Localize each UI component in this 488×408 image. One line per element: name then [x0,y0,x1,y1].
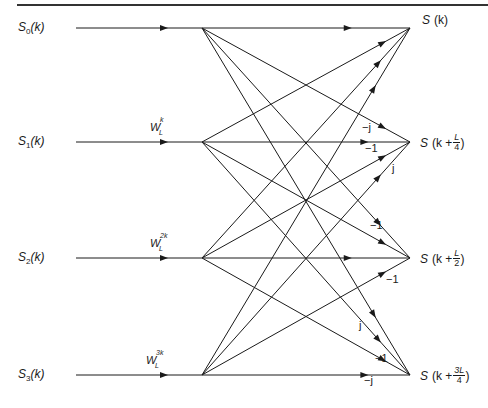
twiddle-subscript: L [159,245,163,252]
output-name: S [420,253,428,265]
arrow-icon [378,238,388,247]
fraction-denominator: 2 [454,259,459,268]
output-fraction: 3L4 [453,366,465,386]
output-arg: (k) [434,14,448,26]
input-label-2: S2(k) [18,251,44,266]
output-arg: (k + [432,370,452,382]
coefficient-label-5: j [359,320,361,331]
output-label-1: S(k +L4) [420,133,464,153]
output-close: ) [460,137,464,149]
input-label-3: S3(k) [18,368,44,383]
input-name: S [18,250,26,264]
arrow-icon [160,139,168,145]
coefficient-label-0: −j [362,122,371,133]
output-close: ) [465,370,469,382]
input-arg: (k) [30,134,44,148]
output-arg: (k + [432,253,452,265]
coefficient-label-4: −1 [386,274,399,285]
output-close: ) [460,253,464,265]
output-arg: (k + [432,137,452,149]
coefficient-label-2: j [392,163,394,174]
coefficient-label-3: −1 [370,220,383,231]
coefficient-label-7: −j [364,375,373,386]
arrow-icon [378,153,388,162]
twiddle-subscript: L [155,362,159,369]
arrow-icon [369,84,378,94]
arrow-icon [378,122,388,131]
twiddle-exponent: 2k [160,232,167,239]
fraction-denominator: 4 [454,143,459,152]
arrow-icon [160,255,168,261]
arrow-icon [160,25,168,31]
twiddle-factor-2: W2kL [150,238,160,249]
arrow-icon [344,255,352,261]
twiddle-factor-3: W3kL [146,355,156,366]
input-name: S [18,134,26,148]
twiddle-exponent: k [160,116,164,123]
output-label-3: S(k +3L4) [420,366,469,386]
twiddle-exponent: 3k [156,349,163,356]
coefficient-label-1: −1 [365,143,378,154]
output-name: S [420,137,428,149]
output-label-0: S(k) [422,14,448,26]
coefficient-label-6: −1 [375,353,388,364]
input-arg: (k) [30,367,44,381]
twiddle-factor-1: WkL [150,122,160,133]
fraction-denominator: 4 [457,376,462,385]
output-name: S [420,370,428,382]
arrow-icon [378,38,388,47]
arrow-icon [369,309,378,319]
input-name: S [18,20,26,34]
twiddle-subscript: L [159,129,163,136]
output-fraction: L2 [453,249,460,269]
output-label-2: S(k +L2) [420,249,464,269]
input-arg: (k) [30,250,44,264]
arrow-icon [160,372,168,378]
output-fraction: L4 [453,133,460,153]
input-name: S [18,367,26,381]
input-arg: (k) [30,20,44,34]
input-label-1: S1(k) [18,135,44,150]
input-label-0: S0(k) [18,21,44,36]
butterfly-diagram [0,0,488,408]
arrow-icon [344,25,352,31]
output-name: S [422,14,430,26]
